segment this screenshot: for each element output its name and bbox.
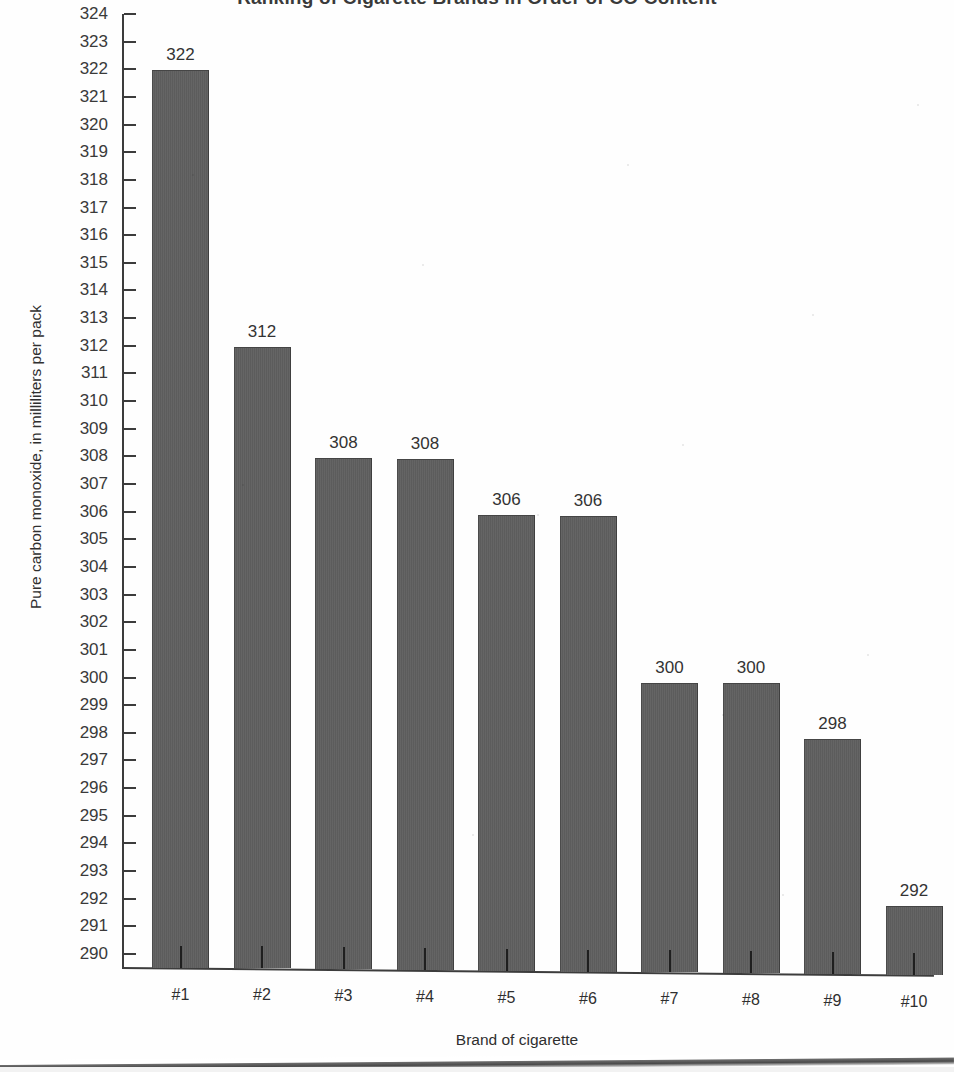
- bar: [315, 458, 372, 969]
- y-axis-tick: [124, 566, 136, 568]
- y-axis-tick: [124, 207, 136, 209]
- y-axis-tick: [124, 68, 136, 70]
- y-axis-tick-label: 314: [48, 281, 108, 298]
- chart-title: Ranking of Cigarette Brands in Order of …: [0, 0, 954, 9]
- y-axis-tick: [124, 925, 136, 927]
- y-axis-tick-label: 319: [48, 143, 108, 160]
- scan-speckle: [917, 104, 919, 106]
- y-axis-tick-label: 323: [48, 33, 108, 50]
- y-axis-tick: [124, 953, 136, 955]
- y-axis-tick: [124, 455, 136, 457]
- scan-speckle: [812, 314, 814, 316]
- scan-speckle: [472, 834, 474, 836]
- bar-base-tick: [424, 948, 426, 970]
- x-axis-tick-label: #3: [304, 987, 384, 1005]
- y-axis-tick-label: 292: [48, 890, 108, 907]
- y-axis-tick: [124, 677, 136, 679]
- y-axis-tick: [124, 234, 136, 236]
- y-axis-tick: [124, 704, 136, 706]
- scan-speckle: [192, 174, 194, 176]
- bar-base-tick: [913, 953, 915, 975]
- y-axis-tick: [124, 898, 136, 900]
- scan-speckle: [242, 484, 244, 486]
- bar-value-label: 300: [711, 659, 791, 677]
- y-axis-tick-label: 308: [48, 447, 108, 464]
- y-axis-tick-label: 309: [48, 420, 108, 437]
- y-axis-tick-label: 295: [48, 807, 108, 824]
- x-axis-tick-label: #5: [467, 989, 547, 1007]
- y-axis-tick: [124, 538, 136, 540]
- y-axis-tick-label: 301: [48, 641, 108, 658]
- y-axis-tick: [124, 870, 136, 872]
- y-axis-tick: [124, 511, 136, 513]
- x-axis-tick-label: #6: [548, 990, 628, 1008]
- x-axis-tick-label: #4: [385, 988, 465, 1006]
- bar-base-tick: [669, 950, 671, 972]
- y-axis-tick: [124, 621, 136, 623]
- y-axis-tick-label: 293: [48, 862, 108, 879]
- bar: [641, 683, 698, 973]
- x-axis-title: Brand of cigarette: [122, 1031, 912, 1049]
- bar: [234, 347, 291, 969]
- bar-value-label: 292: [874, 882, 954, 900]
- y-axis-tick-label: 298: [48, 724, 108, 741]
- y-axis-tick: [124, 13, 136, 15]
- y-axis-tick: [124, 759, 136, 761]
- y-axis-tick-label: 318: [48, 171, 108, 188]
- y-axis-tick: [124, 842, 136, 844]
- y-axis-tick-label: 297: [48, 751, 108, 768]
- y-axis-tick-label: 317: [48, 199, 108, 216]
- y-axis-tick: [124, 179, 136, 181]
- y-axis-tick: [124, 345, 136, 347]
- bar: [723, 683, 780, 973]
- scanned-page: Ranking of Cigarette Brands in Order of …: [0, 0, 954, 1072]
- bar-base-tick: [506, 949, 508, 971]
- y-axis-tick: [124, 41, 136, 43]
- y-axis-tick: [124, 787, 136, 789]
- y-axis-tick: [124, 372, 136, 374]
- y-axis-tick: [124, 649, 136, 651]
- scan-speckle: [422, 264, 424, 266]
- bar-value-label: 308: [385, 435, 465, 453]
- bar-value-label: 300: [630, 659, 710, 677]
- y-axis-tick-label: 306: [48, 503, 108, 520]
- y-axis-tick-label: 310: [48, 392, 108, 409]
- scan-speckle: [627, 164, 629, 166]
- y-axis-tick-label: 311: [48, 364, 108, 381]
- bar-value-label: 312: [222, 323, 302, 341]
- bar-base-tick: [180, 946, 182, 968]
- page-edge-highlight: [0, 1067, 954, 1072]
- bar-value-label: 322: [141, 46, 221, 64]
- bar-chart: Ranking of Cigarette Brands in Order of …: [0, 0, 954, 1072]
- bar-base-tick: [750, 951, 752, 973]
- y-axis-tick-label: 291: [48, 917, 108, 934]
- scan-speckle: [682, 444, 684, 446]
- y-axis-line: [122, 14, 124, 968]
- y-axis-tick-label: 315: [48, 254, 108, 271]
- y-axis-tick: [124, 400, 136, 402]
- bar-value-label: 308: [304, 434, 384, 452]
- x-axis-tick-label: #9: [793, 992, 873, 1010]
- bar-value-label: 306: [548, 492, 628, 510]
- y-axis-tick: [124, 151, 136, 153]
- x-axis-tick-label: #7: [630, 990, 710, 1008]
- y-axis-tick-label: 294: [48, 834, 108, 851]
- bar-base-tick: [343, 947, 345, 969]
- y-axis-tick-label: 303: [48, 586, 108, 603]
- y-axis-tick: [124, 815, 136, 817]
- bar: [478, 515, 535, 971]
- y-axis-tick: [124, 124, 136, 126]
- bar-value-label: 298: [793, 715, 873, 733]
- y-axis-tick-label: 300: [48, 669, 108, 686]
- y-axis-tick-label: 321: [48, 88, 108, 105]
- bar-value-label: 306: [467, 491, 547, 509]
- y-axis-tick: [124, 483, 136, 485]
- y-axis-tick-label: 296: [48, 779, 108, 796]
- y-axis-tick-label: 320: [48, 116, 108, 133]
- plot-area: 3243233223213203193183173163153143133123…: [122, 14, 934, 968]
- y-axis-tick-label: 312: [48, 337, 108, 354]
- y-axis-tick-label: 307: [48, 475, 108, 492]
- y-axis-tick-label: 313: [48, 309, 108, 326]
- y-axis-tick-label: 322: [48, 60, 108, 77]
- bar: [397, 459, 454, 970]
